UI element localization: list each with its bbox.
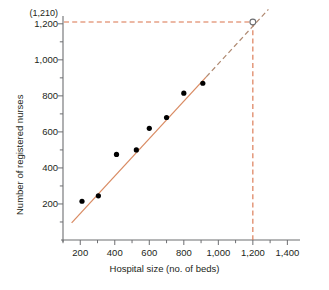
regression-line-extrapolated <box>206 9 268 77</box>
data-point <box>200 81 205 86</box>
y-axis-title: Number of registered nurses <box>14 95 25 215</box>
data-point <box>79 199 84 204</box>
extrapolated-point-marker <box>250 19 256 25</box>
x-tick-label: 1,400 <box>265 247 309 258</box>
data-point <box>114 152 119 157</box>
x-axis-title: Hospital size (no. of beds) <box>0 263 329 274</box>
data-point <box>134 147 139 152</box>
extrapolation-value-label: (1,210) <box>6 8 58 18</box>
y-tick-label: 1,200 <box>8 18 58 29</box>
data-point <box>147 126 152 131</box>
data-point <box>96 193 101 198</box>
x-axis-major-ticks <box>80 240 287 245</box>
y-tick-label: 1,000 <box>8 54 58 65</box>
data-point <box>181 91 186 96</box>
chart-figure: 2004006008001,0001,2001,400 200400600800… <box>0 0 329 290</box>
data-point <box>164 115 169 120</box>
